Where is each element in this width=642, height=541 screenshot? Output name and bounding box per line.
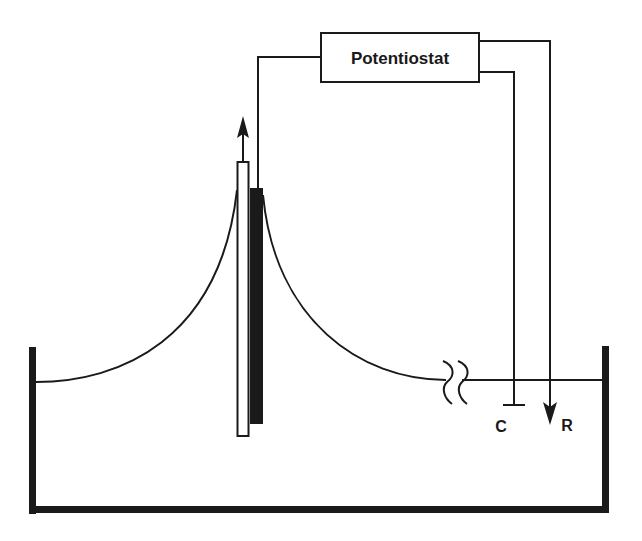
beaker-bottom-wall bbox=[29, 506, 609, 513]
potentiostat-label: Potentiostat bbox=[351, 49, 450, 68]
left-meniscus bbox=[36, 190, 237, 382]
break-symbol-icon bbox=[443, 361, 468, 404]
diagram-canvas: Potentiostat C R bbox=[0, 0, 642, 541]
beaker-left-wall bbox=[29, 347, 36, 514]
wires bbox=[258, 41, 550, 410]
liquid-surface bbox=[36, 190, 602, 382]
film-coating bbox=[250, 188, 263, 424]
potentiostat-box: Potentiostat bbox=[321, 33, 479, 82]
beaker-right-wall bbox=[602, 346, 609, 513]
wire-counter bbox=[479, 72, 514, 405]
beaker bbox=[29, 346, 609, 514]
working-electrode bbox=[238, 162, 264, 436]
glass-slide bbox=[238, 162, 249, 436]
wire-working bbox=[258, 57, 321, 190]
withdrawal-arrow-icon bbox=[237, 116, 249, 162]
right-meniscus bbox=[263, 195, 446, 380]
reference-electrode-label: R bbox=[561, 417, 573, 434]
counter-electrode-label: C bbox=[495, 418, 507, 435]
